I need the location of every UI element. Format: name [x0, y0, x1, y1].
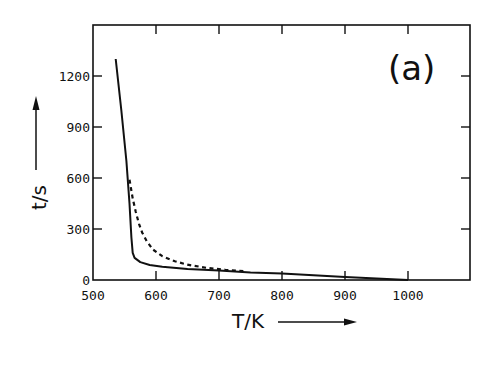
x-tick-label: 600 — [144, 288, 167, 303]
x-tick-label: 700 — [207, 288, 230, 303]
y-axis-title: t/s — [27, 185, 51, 210]
x-axis-ticks: 5006007008009001000 — [81, 25, 423, 303]
y-tick-label: 1200 — [59, 69, 90, 84]
x-axis-arrow-icon — [278, 319, 357, 326]
y-tick-label: 0 — [82, 273, 90, 288]
y-tick-label: 600 — [67, 171, 90, 186]
x-tick-label: 1000 — [392, 288, 423, 303]
y-tick-label: 900 — [67, 120, 90, 135]
y-tick-label: 300 — [67, 222, 90, 237]
x-tick-label: 800 — [270, 288, 293, 303]
y-axis-arrow-icon — [33, 96, 40, 170]
data-series — [116, 59, 408, 280]
x-tick-label: 900 — [333, 288, 356, 303]
series-dashed — [130, 180, 245, 272]
x-axis-title: T/K — [231, 309, 265, 333]
chart: 5006007008009001000 03006009001200 (a) T… — [0, 0, 493, 365]
x-tick-label: 500 — [81, 288, 104, 303]
series-solid — [116, 59, 408, 280]
panel-label: (a) — [388, 48, 435, 88]
